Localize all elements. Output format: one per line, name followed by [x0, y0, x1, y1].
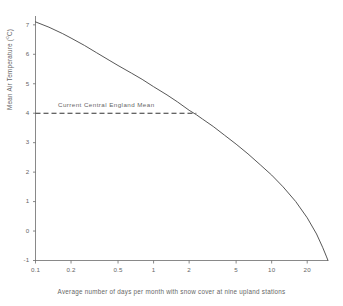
data-series-line: [36, 22, 329, 261]
y-tick-label: 0: [14, 228, 30, 234]
degree-symbol: o: [5, 36, 10, 39]
x-tick-label: 0.2: [59, 267, 83, 273]
x-axis-ticks: [36, 261, 308, 264]
x-tick-label: 2: [177, 267, 201, 273]
y-tick-label: 7: [14, 22, 30, 28]
y-tick-label: 4: [14, 110, 30, 116]
chart-figure: -101234567 0.10.20.51251020 Current Cent…: [0, 0, 343, 306]
y-tick-label: 2: [14, 169, 30, 175]
x-axis-title: Average number of days per month with sn…: [0, 288, 343, 295]
y-tick-label: 6: [14, 51, 30, 57]
y-axis-title: Mean Air Temperature (oC): [5, 0, 13, 110]
y-tick-label: -1: [14, 257, 30, 263]
y-tick-label: 5: [14, 81, 30, 87]
x-tick-label: 5: [224, 267, 248, 273]
x-tick-label: 1: [142, 267, 166, 273]
x-tick-label: 0.1: [24, 267, 48, 273]
x-tick-label: 20: [295, 267, 319, 273]
plot-canvas: [0, 0, 343, 306]
x-tick-label: 10: [260, 267, 284, 273]
reference-line-label: Current Central England Mean: [58, 101, 155, 108]
x-tick-label: 0.5: [106, 267, 130, 273]
y-axis-title-unit: C): [6, 29, 13, 36]
y-axis-title-text: Mean Air Temperature (: [6, 39, 13, 110]
y-tick-label: 3: [14, 139, 30, 145]
y-tick-label: 1: [14, 198, 30, 204]
